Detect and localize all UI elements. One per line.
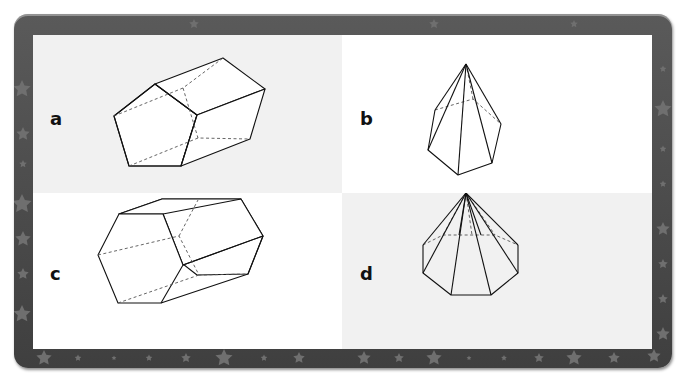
panel-b: b bbox=[342, 35, 652, 193]
pentagonal-prism-shape bbox=[33, 35, 342, 193]
panel-a: a bbox=[33, 35, 342, 193]
panel-c: c bbox=[33, 193, 342, 349]
panel-d: d bbox=[342, 193, 652, 349]
octagonal-pyramid-shape bbox=[342, 193, 652, 349]
pentagonal-pyramid-shape bbox=[342, 35, 652, 193]
figure-board: a b bbox=[33, 35, 652, 349]
hexagonal-prism-shape bbox=[33, 193, 342, 349]
